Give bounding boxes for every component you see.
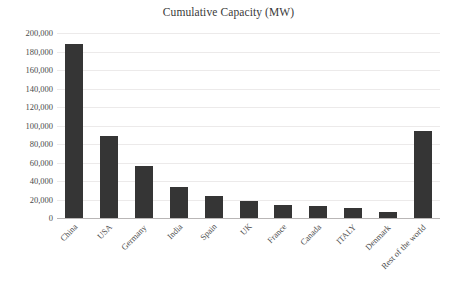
y-axis-tick-label: 140,000 (0, 84, 53, 93)
x-axis-tick-label: Germany (119, 222, 148, 251)
y-axis-tick-label: 120,000 (0, 103, 53, 112)
x-axis-tick-label: USA (95, 222, 114, 241)
y-axis-tick-label: 180,000 (0, 47, 53, 56)
bar[interactable] (100, 136, 118, 218)
y-axis-tick-label: 160,000 (0, 66, 53, 75)
x-axis-tick-label: Denmark (363, 222, 392, 251)
bar[interactable] (65, 44, 83, 218)
y-axis-tick-label: 80,000 (0, 140, 53, 149)
x-axis-tick-label: China (58, 222, 79, 243)
bar[interactable] (135, 166, 153, 218)
x-axis-tick-label: India (165, 222, 184, 241)
bars-layer (57, 33, 440, 218)
chart-title: Cumulative Capacity (MW) (0, 6, 457, 18)
bar[interactable] (170, 187, 188, 218)
y-axis-tick-label: 60,000 (0, 158, 53, 167)
y-axis-tick-label: 20,000 (0, 195, 53, 204)
bar[interactable] (240, 201, 258, 218)
bar[interactable] (205, 196, 223, 218)
y-axis-tick-label: 100,000 (0, 121, 53, 130)
y-axis-tick-label: 40,000 (0, 177, 53, 186)
x-axis-tick-label: Spain (198, 222, 219, 243)
bar-chart: Cumulative Capacity (MW) 200,000180,0001… (0, 0, 457, 291)
bar[interactable] (344, 208, 362, 218)
x-axis-tick-label: France (265, 222, 288, 245)
x-axis-tick-label: ITALY (334, 222, 358, 246)
x-axis-tick-label: UK (238, 222, 254, 238)
y-axis-tick-label: 200,000 (0, 29, 53, 38)
bar[interactable] (309, 206, 327, 218)
bar[interactable] (274, 205, 292, 218)
bar[interactable] (414, 131, 432, 218)
x-axis-tick-label: Canada (298, 222, 323, 247)
x-axis: ChinaUSAGermanyIndiaSpainUKFranceCanadaI… (57, 218, 457, 291)
y-axis: 200,000180,000160,000140,000120,000100,0… (0, 33, 53, 218)
y-axis-tick-label: 0 (0, 214, 53, 223)
